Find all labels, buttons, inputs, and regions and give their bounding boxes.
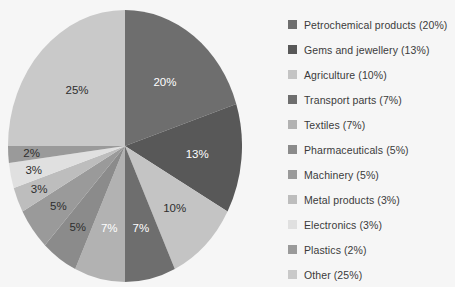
legend-item[interactable]: Electronics (3%) (288, 212, 453, 237)
legend-item[interactable]: Textiles (7%) (288, 112, 453, 137)
pie-slice-value-label: 2% (23, 147, 40, 159)
pie-slice-value-label: 5% (50, 200, 67, 212)
pie-slice[interactable] (8, 10, 125, 146)
legend-item[interactable]: Pharmaceuticals (5%) (288, 137, 453, 162)
pie-slice-value-label: 10% (163, 202, 186, 214)
legend-color-swatch (288, 20, 297, 29)
legend-color-swatch (288, 195, 297, 204)
legend-item[interactable]: Other (25%) (288, 262, 453, 287)
legend-item[interactable]: Agriculture (10%) (288, 62, 453, 87)
legend-color-swatch (288, 45, 297, 54)
legend-item-label: Transport parts (7%) (304, 94, 402, 106)
legend-item-label: Plastics (2%) (304, 244, 367, 256)
legend-color-swatch (288, 170, 297, 179)
pie-slice-value-label: 7% (101, 222, 118, 234)
legend-item[interactable]: Machinery (5%) (288, 162, 453, 187)
legend-color-swatch (288, 95, 297, 104)
legend-color-swatch (288, 145, 297, 154)
legend-item-label: Machinery (5%) (304, 169, 379, 181)
pie-chart-plot-area: 20%13%10%7%7%5%5%3%3%2%25% (8, 10, 242, 282)
pie-chart-svg: 20%13%10%7%7%5%5%3%3%2%25% (8, 10, 242, 282)
legend-color-swatch (288, 70, 297, 79)
legend-item-label: Electronics (3%) (304, 219, 382, 231)
legend-item-label: Petrochemical products (20%) (304, 19, 447, 31)
legend-item[interactable]: Transport parts (7%) (288, 87, 453, 112)
legend-item[interactable]: Gems and jewellery (13%) (288, 37, 453, 62)
pie-slice-value-label: 5% (69, 221, 86, 233)
pie-slice-value-label: 3% (31, 183, 48, 195)
legend-color-swatch (288, 270, 297, 279)
legend-item[interactable]: Petrochemical products (20%) (288, 12, 453, 37)
legend-item[interactable]: Plastics (2%) (288, 237, 453, 262)
legend-color-swatch (288, 120, 297, 129)
pie-slice-value-label: 20% (153, 76, 176, 88)
legend-item-label: Agriculture (10%) (304, 69, 387, 81)
legend-item-label: Metal products (3%) (304, 194, 400, 206)
legend-color-swatch (288, 245, 297, 254)
pie-slice-group (8, 10, 242, 282)
legend-item-label: Textiles (7%) (304, 119, 365, 131)
legend-color-swatch (288, 220, 297, 229)
pie-slice-value-label: 3% (25, 164, 42, 176)
pie-chart-figure: 20%13%10%7%7%5%5%3%3%2%25% Petrochemical… (0, 0, 455, 287)
legend-item-label: Pharmaceuticals (5%) (304, 144, 409, 156)
pie-slice-value-label: 7% (132, 222, 149, 234)
legend-item-label: Other (25%) (304, 269, 362, 281)
pie-slice-value-label: 13% (186, 148, 209, 160)
chart-legend: Petrochemical products (20%)Gems and jew… (288, 12, 453, 287)
pie-slice-value-label: 25% (65, 84, 88, 96)
legend-item[interactable]: Metal products (3%) (288, 187, 453, 212)
legend-item-label: Gems and jewellery (13%) (304, 44, 430, 56)
